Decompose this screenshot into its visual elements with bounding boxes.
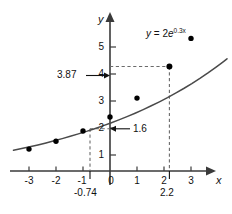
data-point [134, 95, 139, 100]
equation-label: y = 2e0.3x [146, 25, 186, 39]
data-point [107, 114, 112, 119]
readout-x-neg: -0.74 [74, 188, 97, 198]
x-tick-label-neg2: -2 [46, 176, 66, 186]
readout-y-high: 3.87 [57, 70, 76, 80]
readout-x-pos: 2.2 [160, 188, 174, 198]
x-tick-label-1: 1 [127, 176, 147, 186]
readout-y-low: 1.6 [133, 124, 147, 134]
y-tick-label-3: 3 [84, 96, 104, 106]
x-axis-label: x [216, 175, 222, 185]
data-point [166, 64, 172, 70]
arrow-16-head [110, 126, 116, 132]
arrow-387-head [104, 73, 110, 79]
y-tick-label-1: 1 [84, 150, 104, 160]
y-tick-label-4: 4 [84, 69, 104, 79]
x-tick-label-neg3: -3 [19, 176, 39, 186]
y-axis-arrowhead [106, 12, 115, 22]
y-tick-label-5: 5 [84, 42, 104, 52]
data-point [26, 146, 31, 151]
x-tick-label-zero: 0 [101, 176, 121, 186]
data-point [53, 139, 58, 144]
data-point [188, 36, 193, 41]
exponential-curve [14, 59, 228, 151]
x-tick-label-2: 2 [154, 176, 174, 186]
x-tick-label-3: 3 [181, 176, 201, 186]
y-tick-label-2: 2 [84, 123, 104, 133]
y-axis-label: y [98, 14, 104, 24]
equation-exponent: 0.3x [174, 27, 186, 34]
exponential-function-graph: -3 -2 -1 0 1 2 3 1 2 3 4 5 y x 3.87 1.6 … [0, 0, 232, 214]
equation-eq: = 2 [151, 28, 168, 39]
y-tick-marks [110, 47, 116, 155]
x-tick-label-neg1: -1 [72, 176, 92, 186]
x-axis-arrowhead [206, 167, 216, 176]
